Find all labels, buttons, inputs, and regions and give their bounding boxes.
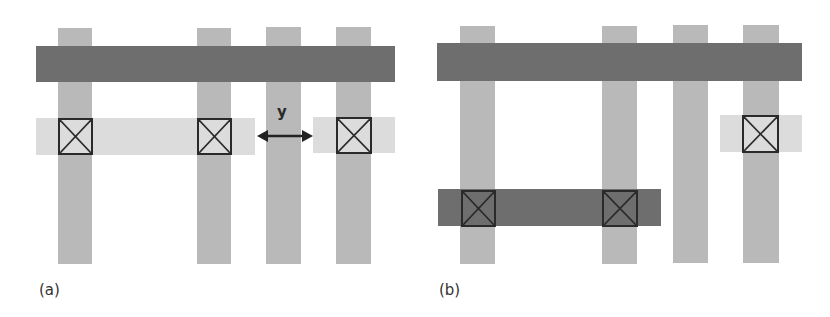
top-dark-bar [36,46,395,82]
cross-icon [338,119,370,152]
top-dark-bar [437,43,802,81]
cross-icon [463,192,494,225]
contact-box [336,117,372,154]
spacing-label: y [277,103,287,121]
cross-icon [199,120,230,153]
contact-box [461,190,496,227]
double-arrow-icon [257,129,313,143]
contact-box [742,115,779,153]
panel-caption: (b) [439,281,460,299]
cross-icon [604,192,636,225]
panel-caption: (a) [39,281,60,299]
contact-box [602,190,638,227]
contact-box [58,118,93,155]
cross-icon [60,120,91,153]
contact-box [197,118,232,155]
cross-icon [744,117,777,151]
